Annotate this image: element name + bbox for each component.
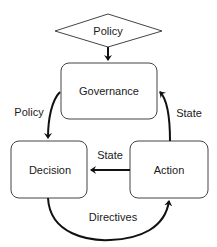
governance-to-decision-arrow	[48, 92, 60, 138]
edge-label-policy: Policy	[14, 107, 43, 118]
edge-label-directives: Directives	[89, 212, 137, 223]
policy-diamond-label: Policy	[93, 26, 122, 37]
governance-label: Governance	[79, 86, 139, 97]
action-to-governance-arrow	[160, 92, 170, 141]
action-label: Action	[154, 165, 185, 176]
edge-label-state-right: State	[176, 108, 202, 119]
edge-label-state-middle: State	[97, 150, 123, 161]
decision-label: Decision	[29, 165, 71, 176]
